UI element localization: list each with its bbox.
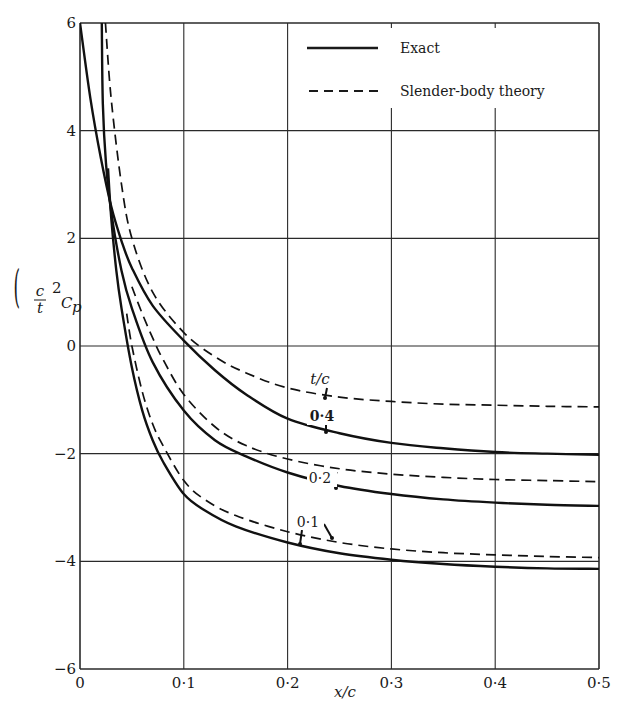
y-tick-label: −6 bbox=[54, 660, 76, 678]
y-tick-label: 6 bbox=[66, 14, 76, 32]
legend-exact-label: Exact bbox=[400, 40, 440, 56]
pressure-coefficient-chart: 00·10·20·30·40·56420−2−4−6 ( c t 2 C p x… bbox=[0, 0, 631, 716]
legend: Exact Slender-body theory bbox=[303, 28, 593, 108]
y-tick-label: 4 bbox=[66, 122, 76, 140]
arrow-head bbox=[323, 396, 327, 400]
y-tick-label: −2 bbox=[54, 445, 76, 463]
svg-text:(: ( bbox=[14, 261, 21, 313]
annotation-0-1: 0·1 bbox=[297, 514, 319, 530]
annotation-0-4: 0·4 bbox=[310, 408, 335, 424]
y-tick-label: 2 bbox=[66, 229, 76, 247]
ylabel-fraction-denominator: t bbox=[37, 299, 44, 317]
y-tick-label: −4 bbox=[54, 552, 76, 570]
annotation-0-2: 0·2 bbox=[309, 470, 331, 486]
annotation-arrow bbox=[324, 524, 332, 538]
y-axis-label: ( c t 2 C p bbox=[14, 261, 82, 317]
arrow-head bbox=[324, 430, 328, 434]
arrow-head bbox=[298, 542, 302, 546]
x-tick-label: 0·5 bbox=[587, 674, 611, 692]
arrow-head bbox=[330, 536, 334, 540]
x-tick-label: 0·4 bbox=[483, 674, 507, 692]
x-axis-label: x/c bbox=[334, 683, 357, 701]
ylabel-fraction-numerator: c bbox=[36, 282, 45, 300]
x-tick-label: 0·1 bbox=[172, 674, 196, 692]
legend-sbt-label: Slender-body theory bbox=[400, 83, 545, 99]
x-tick-label: 0 bbox=[75, 674, 85, 692]
exact-curve bbox=[108, 168, 599, 569]
x-tick-label: 0·3 bbox=[379, 674, 403, 692]
x-tick-label: 0·2 bbox=[276, 674, 300, 692]
annotation-tc: t/c bbox=[310, 370, 330, 388]
axis-ticks: 00·10·20·30·40·56420−2−4−6 bbox=[54, 14, 611, 692]
y-tick-label: 0 bbox=[66, 337, 76, 355]
slender-body-curve bbox=[127, 314, 599, 558]
grid-lines bbox=[80, 23, 599, 669]
ylabel-cp-subscript: p bbox=[72, 298, 82, 316]
annotation-arrow bbox=[300, 530, 302, 544]
